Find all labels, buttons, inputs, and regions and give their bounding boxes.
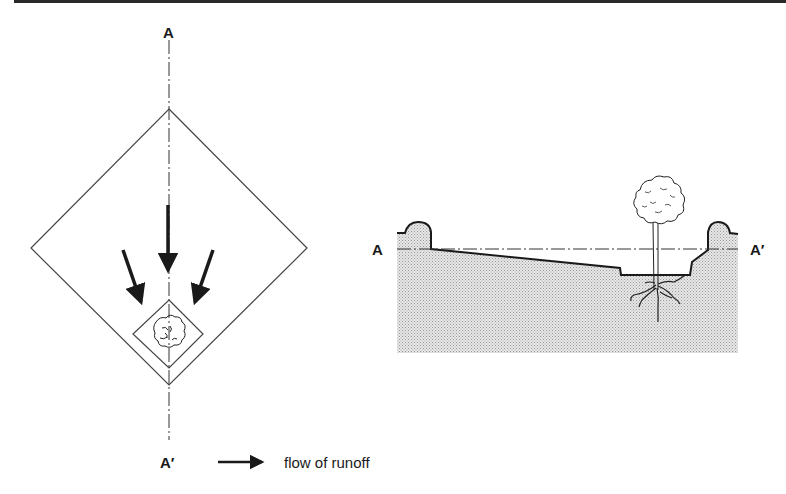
plan-view bbox=[31, 40, 307, 440]
right-runoff-arrow bbox=[195, 250, 213, 302]
diagram-canvas bbox=[0, 0, 786, 494]
tree-icon bbox=[634, 176, 685, 290]
section-label-a: A bbox=[372, 242, 383, 257]
planting-basin-diamond bbox=[133, 300, 203, 368]
plan-label-a-prime: A′ bbox=[160, 455, 174, 470]
plan-label-a: A bbox=[163, 25, 174, 40]
tree-crown bbox=[634, 176, 685, 224]
legend-label: flow of runoff bbox=[284, 455, 370, 470]
soil-stipple bbox=[397, 222, 738, 353]
left-runoff-arrow bbox=[123, 250, 141, 302]
section-view bbox=[397, 176, 738, 353]
section-label-a-prime: A′ bbox=[750, 242, 764, 257]
